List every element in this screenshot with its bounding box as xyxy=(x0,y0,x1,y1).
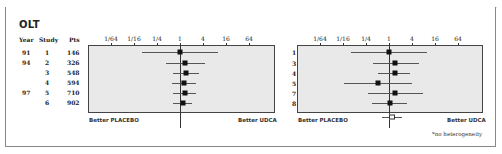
header-year: Year xyxy=(19,36,34,43)
point-estimate xyxy=(387,50,392,55)
point-estimate xyxy=(376,81,381,86)
heterogeneity-note: *no heterogeneity xyxy=(432,131,482,137)
cell-pts: 902 xyxy=(67,99,80,106)
point-estimate xyxy=(393,61,398,66)
cell-study: 6 xyxy=(45,99,49,106)
point-estimate xyxy=(184,71,189,76)
point-estimate xyxy=(183,91,188,96)
cell-study: 3 xyxy=(45,69,49,76)
point-estimate xyxy=(393,71,398,76)
row-label: 1 xyxy=(292,49,296,56)
point-estimate xyxy=(388,101,393,106)
tick-label: 64 xyxy=(245,35,253,42)
point-estimate xyxy=(183,61,188,66)
cell-pts: 710 xyxy=(67,89,80,96)
point-estimate xyxy=(182,81,187,86)
null-line xyxy=(180,45,181,128)
tick-label: 1/16 xyxy=(336,35,349,42)
cell-study: 5 xyxy=(45,89,49,96)
row-label: 4 xyxy=(292,70,296,77)
point-estimate xyxy=(178,50,183,55)
label-better-udca: Better UDCA xyxy=(447,117,486,123)
pooled-estimate xyxy=(389,115,395,120)
cell-pts: 146 xyxy=(67,49,80,56)
tick-label: 16 xyxy=(222,35,230,42)
cell-study: 1 xyxy=(45,49,49,56)
point-estimate xyxy=(181,101,186,106)
tick-label: 4 xyxy=(410,35,414,42)
figure-title: OLT xyxy=(19,19,40,30)
cell-pts: 326 xyxy=(67,59,80,66)
label-better-placebo: Better PLACEBO xyxy=(298,117,348,123)
label-better-udca: Better UDCA xyxy=(238,117,277,123)
tick-label: 1 xyxy=(387,35,391,42)
cell-year: 97 xyxy=(22,89,30,96)
header-study: Study xyxy=(39,36,58,43)
cell-year: 94 xyxy=(22,59,30,66)
row-label: 5 xyxy=(292,80,296,87)
tick-label: 1/16 xyxy=(127,35,140,42)
row-label: 7 xyxy=(292,90,296,97)
point-estimate xyxy=(393,91,398,96)
cell-year: 91 xyxy=(22,49,30,56)
tick-label: 1/4 xyxy=(361,35,371,42)
row-label: 3 xyxy=(292,60,296,67)
tick-label: 1/4 xyxy=(152,35,162,42)
tick-label: 16 xyxy=(431,35,439,42)
header-pts: Pts xyxy=(69,36,80,43)
cell-study: 4 xyxy=(45,79,49,86)
row-label: 8 xyxy=(292,100,296,107)
cell-pts: 594 xyxy=(67,79,80,86)
cell-pts: 548 xyxy=(67,69,80,76)
tick-label: 1/64 xyxy=(313,35,326,42)
label-better-placebo: Better PLACEBO xyxy=(89,117,139,123)
tick-label: 1/64 xyxy=(104,35,117,42)
tick-label: 1 xyxy=(178,35,182,42)
tick-label: 64 xyxy=(454,35,462,42)
cell-study: 2 xyxy=(45,59,49,66)
tick-label: 4 xyxy=(201,35,205,42)
